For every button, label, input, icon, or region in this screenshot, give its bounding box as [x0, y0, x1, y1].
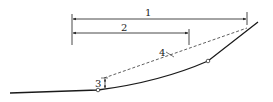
dashed-chord-line — [104, 28, 247, 78]
label-1: 1 — [145, 7, 151, 18]
label-3: 3 — [95, 78, 101, 89]
point-upper — [206, 59, 210, 63]
label-2: 2 — [121, 22, 127, 33]
label-4: 4 — [159, 47, 165, 58]
slope-diagram: 1 2 4 3 — [0, 0, 273, 102]
